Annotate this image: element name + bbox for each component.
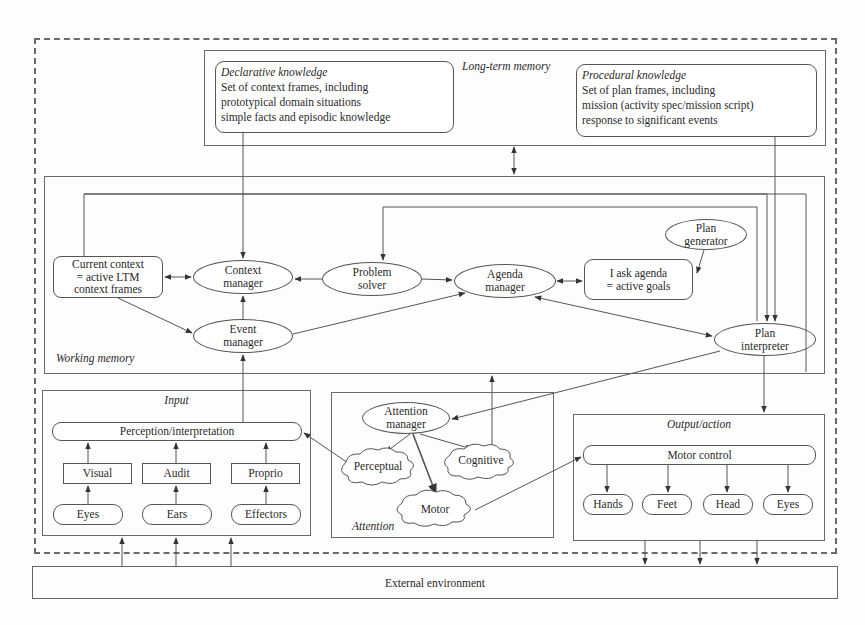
node-label: solver: [358, 279, 386, 292]
procedural-line: Set of plan frames, including: [582, 83, 811, 98]
attention-label: Attention: [352, 520, 394, 532]
external-environment-box: External environment: [32, 566, 838, 599]
output-action-panel: [573, 414, 825, 541]
input-label: Input: [42, 394, 311, 406]
effector-label: Eyes: [777, 497, 799, 512]
output-action-label: Output/action: [573, 418, 825, 430]
task-agenda-line: I ask agenda: [610, 267, 667, 280]
declarative-line: Set of context frames, including: [221, 80, 448, 95]
agenda-manager-node: Agenda manager: [454, 264, 556, 298]
declarative-line: prototypical domain situations: [221, 95, 448, 110]
node-label: Attention: [384, 405, 427, 418]
effector-label: Hands: [593, 497, 622, 512]
attention-manager-node: Attention manager: [362, 402, 450, 434]
declarative-knowledge-title: Declarative knowledge: [221, 65, 448, 80]
node-label: manager: [223, 277, 263, 290]
node-label: manager: [386, 418, 426, 431]
motor-control-box: Motor control: [583, 445, 816, 465]
plan-generator-node: Plan generator: [665, 219, 747, 250]
visual-channel: Visual: [63, 463, 132, 484]
context-manager-node: Context manager: [193, 260, 293, 294]
problem-solver-node: Problem solver: [322, 262, 422, 296]
node-label: interpreter: [741, 340, 789, 353]
eyes-sensor: Eyes: [53, 504, 123, 525]
procedural-line: response to significant events: [582, 113, 811, 128]
event-manager-node: Event manager: [193, 319, 293, 353]
node-label: manager: [223, 336, 263, 349]
declarative-knowledge-box: Declarative knowledge Set of context fra…: [215, 61, 454, 133]
channel-label: Visual: [83, 466, 112, 481]
node-label: Plan: [696, 222, 716, 235]
current-context-box: Current context = active LTM context fra…: [53, 256, 163, 298]
declarative-line: simple facts and episodic knowledge: [221, 110, 448, 125]
task-agenda-line: = active goals: [607, 280, 671, 293]
effector-label: Head: [716, 497, 740, 512]
effector-label: Feet: [657, 497, 677, 512]
node-label: Problem: [353, 266, 392, 279]
channel-label: Audit: [163, 466, 189, 481]
proprio-channel: Proprio: [231, 463, 300, 484]
channel-label: Proprio: [248, 466, 283, 481]
feet-effector: Feet: [642, 494, 692, 515]
current-context-line: context frames: [74, 283, 142, 296]
task-agenda-box: I ask agenda = active goals: [584, 259, 693, 300]
sensor-label: Effectors: [245, 507, 287, 522]
node-label: generator: [684, 235, 727, 248]
perception-label: Perception/interpretation: [120, 424, 234, 439]
plan-interpreter-node: Plan interpreter: [714, 323, 816, 356]
motor-control-label: Motor control: [667, 448, 731, 463]
external-environment-label: External environment: [385, 577, 485, 589]
head-effector: Head: [703, 494, 753, 515]
node-label: Event: [230, 323, 257, 336]
eyes-effector: Eyes: [763, 494, 813, 515]
current-context-line: = active LTM: [77, 271, 140, 284]
current-context-line: Current context: [72, 258, 144, 271]
working-memory-label: Working memory: [56, 352, 134, 364]
ears-sensor: Ears: [142, 504, 212, 525]
sensor-label: Ears: [167, 507, 187, 522]
node-label: Agenda: [487, 268, 523, 281]
perception-box: Perception/interpretation: [52, 422, 302, 441]
hands-effector: Hands: [583, 494, 633, 515]
audit-channel: Audit: [142, 463, 211, 484]
procedural-knowledge-title: Procedural knowledge: [582, 68, 811, 83]
procedural-line: mission (activity spec/mission script): [582, 98, 811, 113]
node-label: Context: [225, 264, 261, 277]
node-label: Plan: [755, 327, 775, 340]
sensor-label: Eyes: [77, 507, 99, 522]
procedural-knowledge-box: Procedural knowledge Set of plan frames,…: [576, 64, 817, 137]
node-label: manager: [485, 281, 525, 294]
effectors-sensor: Effectors: [231, 504, 301, 525]
long-term-memory-label: Long-term memory: [462, 60, 550, 72]
